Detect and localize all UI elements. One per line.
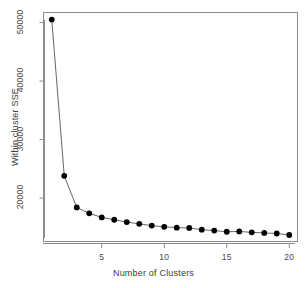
data-point — [111, 217, 117, 223]
data-point — [49, 17, 55, 23]
y-axis-title: Within cluster SSE — [10, 67, 20, 187]
x-tick-label: 20 — [274, 252, 304, 262]
data-point — [186, 225, 192, 231]
data-point — [286, 232, 292, 238]
x-axis-title: Number of Clusters — [0, 268, 307, 278]
data-point — [261, 230, 267, 236]
data-point — [211, 228, 217, 234]
data-point — [199, 227, 205, 233]
y-axis-line — [24, 0, 46, 288]
data-point — [61, 173, 67, 179]
data-point — [274, 231, 280, 237]
y-tick-label: 50000 — [15, 2, 25, 42]
data-point — [236, 229, 242, 235]
data-line — [52, 20, 290, 235]
data-point — [161, 224, 167, 230]
data-point — [224, 229, 230, 235]
chart-figure: 5101520 20000300004000050000 Number of C… — [0, 0, 307, 288]
data-point — [249, 229, 255, 235]
x-tick-label: 10 — [149, 252, 179, 262]
data-point — [124, 219, 130, 225]
data-point — [99, 215, 105, 221]
data-point — [149, 223, 155, 229]
data-point — [86, 210, 92, 216]
data-point — [74, 205, 80, 211]
data-point — [174, 225, 180, 231]
x-tick-label: 15 — [212, 252, 242, 262]
plot-data-area — [43, 12, 298, 242]
x-tick-label: 5 — [87, 252, 117, 262]
data-point — [136, 221, 142, 227]
